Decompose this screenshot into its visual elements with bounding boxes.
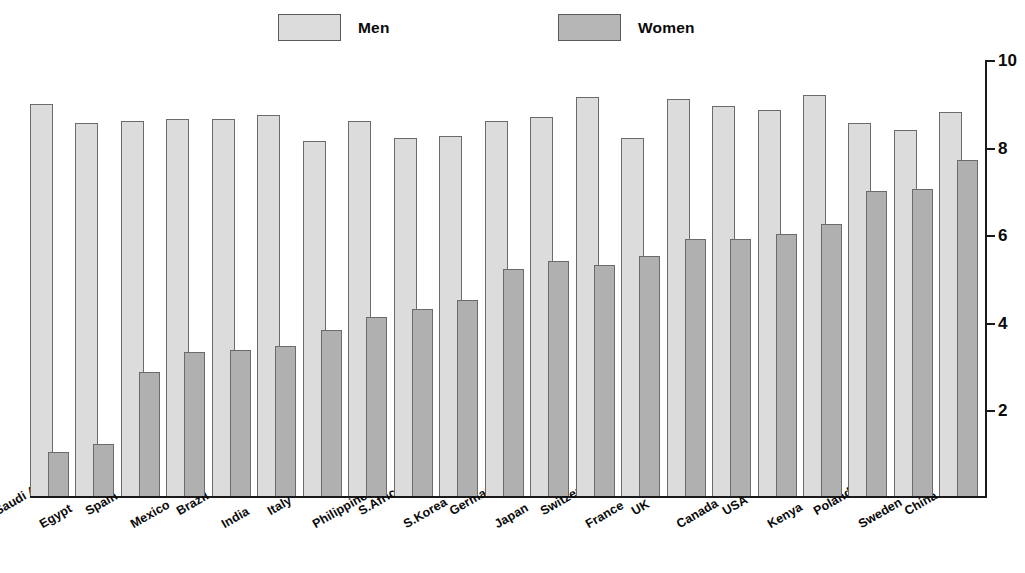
bar-women [503, 269, 524, 496]
bar-women [957, 160, 978, 496]
bar-women [866, 191, 887, 496]
bar-women [184, 352, 205, 496]
y-axis-tick-label: 2 [998, 402, 1007, 419]
x-axis-label: UK [629, 497, 652, 518]
bar-group [121, 60, 166, 496]
y-axis-tick [985, 235, 995, 237]
bar-women [776, 234, 797, 496]
bar-group [394, 60, 439, 496]
bar-group [667, 60, 712, 496]
x-axis-label: Japan [492, 501, 531, 531]
bar-women [139, 372, 160, 496]
bar-women [594, 265, 615, 496]
bar-group [803, 60, 848, 496]
y-axis-right: 108642 [985, 60, 1025, 500]
bar-men [75, 123, 98, 496]
bar-women [412, 309, 433, 496]
bar-group [348, 60, 393, 496]
bar-groups [30, 60, 985, 496]
bar-group [848, 60, 893, 496]
bar-group [758, 60, 803, 496]
y-axis-tick-label: 6 [998, 227, 1007, 244]
x-axis-label: Kenya [765, 500, 805, 531]
bar-women [48, 452, 69, 496]
bar-group [576, 60, 621, 496]
bar-chart: Men Women 108642 Saudi ArabiaEgyptSpainM… [0, 0, 1025, 573]
bar-group [621, 60, 666, 496]
y-axis-tick [985, 148, 995, 150]
x-axis-label: Egypt [37, 501, 75, 531]
bar-group [166, 60, 211, 496]
bar-group [212, 60, 257, 496]
bar-women [230, 350, 251, 496]
x-axis-label: France [583, 498, 626, 531]
bar-group [75, 60, 120, 496]
bar-women [275, 346, 296, 496]
bar-group [939, 60, 984, 496]
y-axis-tick [985, 323, 995, 325]
bar-men [30, 104, 53, 496]
bar-women [685, 239, 706, 496]
legend-swatch-icon-women [558, 14, 621, 41]
x-axis-label: Sweden [856, 495, 904, 531]
plot-area [30, 60, 985, 498]
bar-women [730, 239, 751, 496]
bar-women [457, 300, 478, 496]
bar-women [321, 330, 342, 496]
legend-swatch-icon-men [278, 14, 341, 41]
bar-group [712, 60, 757, 496]
bar-women [93, 444, 114, 496]
x-axis-label: Canada [674, 496, 721, 531]
y-axis-line [985, 60, 987, 498]
bar-women [912, 189, 933, 496]
x-axis-label: S.Korea [401, 495, 450, 531]
legend-entry-men: Men [278, 14, 390, 41]
bar-group [303, 60, 348, 496]
bar-group [257, 60, 302, 496]
y-axis-tick-label: 8 [998, 139, 1007, 156]
bar-women [548, 261, 569, 496]
bar-group [530, 60, 575, 496]
legend-entry-women: Women [558, 14, 695, 41]
bar-group [30, 60, 75, 496]
x-axis-labels: Saudi ArabiaEgyptSpainMexicoBrazilIndiaI… [30, 500, 985, 573]
y-axis-tick-label: 4 [998, 314, 1007, 331]
bar-group [439, 60, 484, 496]
chart-legend: Men Women [0, 14, 1025, 48]
legend-label-men: Men [358, 19, 390, 37]
bar-group [894, 60, 939, 496]
bar-women [821, 224, 842, 497]
bar-group [485, 60, 530, 496]
x-axis-label: India [219, 504, 252, 531]
legend-label-women: Women [638, 19, 695, 37]
bar-women [639, 256, 660, 496]
x-axis-label: Mexico [128, 498, 172, 532]
y-axis-tick [985, 410, 995, 412]
y-axis-tick [985, 60, 995, 62]
bar-women [366, 317, 387, 496]
y-axis-tick-label: 10 [998, 52, 1017, 69]
